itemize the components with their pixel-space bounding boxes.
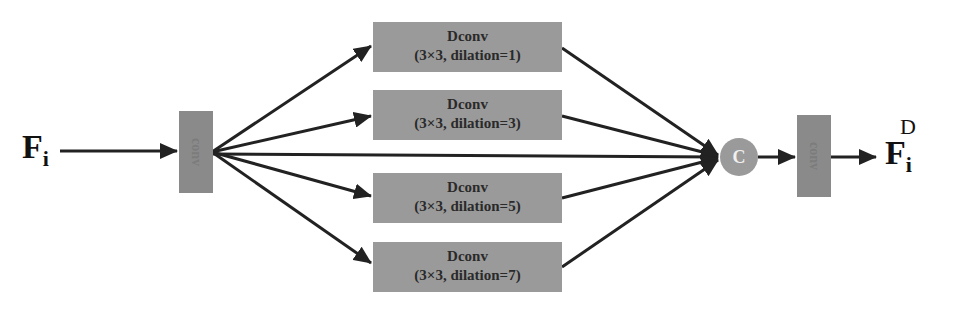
- dconv-block-dilation-5: Dconv (3×3, dilation=5): [373, 173, 562, 223]
- input-feature-label: Fi: [22, 128, 49, 172]
- output-label-superscript: D: [900, 114, 916, 139]
- dconv-block-dilation-1: Dconv (3×3, dilation=1): [373, 22, 562, 72]
- input-conv-block: conv: [179, 111, 213, 193]
- output-label-subscript: i: [906, 152, 912, 177]
- concat-node: C: [720, 138, 758, 176]
- input-conv-label: conv: [188, 138, 204, 166]
- dconv-block-dilation-3: Dconv (3×3, dilation=3): [373, 90, 562, 140]
- output-conv-block: conv: [797, 115, 831, 197]
- output-conv-label: conv: [806, 142, 822, 170]
- dconv-params: (3×3, dilation=3): [373, 114, 562, 133]
- output-label-base: F: [885, 134, 906, 171]
- dconv-params: (3×3, dilation=1): [373, 46, 562, 65]
- dconv-block-dilation-7: Dconv (3×3, dilation=7): [373, 242, 562, 292]
- dconv-params: (3×3, dilation=5): [373, 197, 562, 216]
- dconv-title: Dconv: [373, 95, 562, 114]
- input-label-base: F: [22, 128, 43, 165]
- concat-symbol: C: [733, 147, 746, 168]
- dconv-params: (3×3, dilation=7): [373, 266, 562, 285]
- dconv-title: Dconv: [373, 247, 562, 266]
- dconv-title: Dconv: [373, 27, 562, 46]
- output-feature-label: FiD: [885, 132, 916, 178]
- input-label-subscript: i: [43, 146, 49, 171]
- dconv-title: Dconv: [373, 178, 562, 197]
